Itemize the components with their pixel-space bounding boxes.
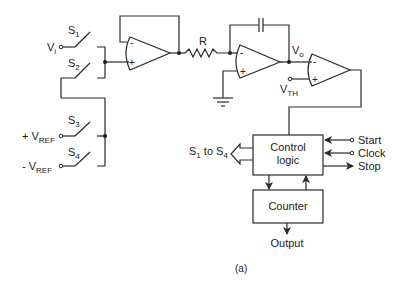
comparator-opamp: - + VTH [280, 54, 361, 135]
svg-text:Stop: Stop [358, 160, 381, 172]
circuit-diagram: Vi S1 S2 + VREF S3 - VREF S4 - + [0, 0, 401, 291]
svg-text:+: + [312, 74, 318, 85]
start-signal: Start [325, 134, 381, 146]
stop-signal: Stop [323, 160, 381, 172]
counter-label: Counter [268, 200, 307, 212]
vref-neg-label: - VREF [22, 160, 52, 175]
s4-label: S4 [68, 146, 80, 161]
switch-bus-arrow [231, 144, 253, 164]
svg-text:-: - [130, 37, 133, 48]
s2-label: S2 [68, 57, 80, 72]
svg-text:R: R [199, 35, 207, 47]
vref-pos-terminal [59, 134, 63, 138]
vref-neg-input: - VREF S4 [22, 146, 90, 175]
svg-text:+: + [129, 57, 135, 68]
svg-text:Start: Start [358, 134, 381, 146]
clock-signal: Clock [325, 147, 386, 159]
svg-text:-: - [313, 56, 316, 67]
ground-icon [213, 98, 233, 106]
vref-pos-label: + VREF [22, 130, 55, 145]
s3-label: S3 [68, 114, 80, 129]
resistor-r: R [185, 35, 232, 57]
vref-neg-terminal [59, 164, 63, 168]
figure-caption: (a) [235, 263, 247, 274]
switch-bus-label: S1 to S4 [189, 145, 228, 160]
s1-label: S1 [68, 24, 80, 39]
output-label: Output [270, 237, 303, 249]
switch-s2-group: S2 [61, 57, 90, 98]
buffer-opamp: - + [120, 16, 185, 70]
svg-text:Clock: Clock [358, 147, 386, 159]
vref-pos-input: + VREF S3 [22, 114, 90, 145]
vi-terminal [59, 45, 63, 49]
junction [103, 60, 107, 64]
vth-label: VTH [280, 83, 298, 98]
vi-label: Vi [47, 41, 56, 56]
junction [103, 134, 107, 138]
control-label: Control [270, 141, 305, 153]
svg-text:-: - [240, 47, 243, 58]
logic-label: logic [277, 154, 300, 166]
vo-label: Vo [292, 44, 304, 59]
vi-input: Vi S1 [47, 24, 90, 56]
svg-text:+: + [240, 66, 246, 77]
